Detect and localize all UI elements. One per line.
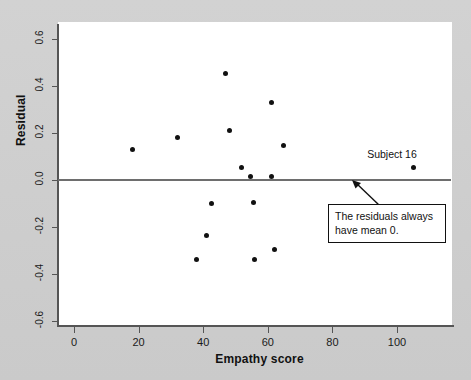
x-tick-mark (203, 327, 204, 333)
residual-plot-figure: 0.60.40.20.0-0.2-0.4-0.6 020406080100 Su… (0, 0, 471, 380)
x-tick-mark (332, 327, 333, 333)
scatter-point (204, 233, 209, 238)
scatter-point (269, 100, 274, 105)
plot-canvas (58, 22, 452, 327)
x-axis-title: Empathy score (0, 352, 471, 366)
x-tick-mark (268, 327, 269, 333)
x-tick-mark (139, 327, 140, 333)
scatter-point (272, 247, 277, 252)
y-tick-mark (52, 39, 58, 40)
x-axis-spine (57, 325, 454, 327)
y-tick-label: 0.2 (34, 121, 45, 143)
callout-text-box: The residuals always have mean 0. (328, 204, 446, 243)
x-axis-title-text: Empathy score (215, 352, 304, 366)
y-tick-mark (52, 86, 58, 87)
x-tick-label: 100 (377, 336, 417, 348)
x-tick-label: 80 (312, 336, 352, 348)
x-tick-mark (74, 327, 75, 333)
y-tick-mark (52, 321, 58, 322)
y-tick-label: -0.4 (34, 262, 45, 284)
scatter-point (209, 201, 214, 206)
x-tick-label: 40 (183, 336, 223, 348)
y-tick-mark (52, 274, 58, 275)
y-axis-title: Residual (14, 94, 28, 146)
x-tick-label: 0 (54, 336, 94, 348)
x-tick-label: 20 (119, 336, 159, 348)
y-tick-label: -0.6 (34, 309, 45, 331)
y-tick-label: 0.6 (34, 27, 45, 49)
zero-reference-line (58, 179, 451, 181)
scatter-point (223, 71, 228, 76)
scatter-point (251, 200, 256, 205)
y-tick-label: 0.4 (34, 74, 45, 96)
scatter-point (227, 128, 232, 133)
scatter-point (130, 147, 135, 152)
y-tick-mark (52, 227, 58, 228)
scatter-point (411, 165, 416, 170)
y-tick-mark (52, 180, 58, 181)
subject-16-label: Subject 16 (367, 148, 417, 160)
y-tick-label: -0.2 (34, 215, 45, 237)
x-tick-label: 60 (248, 336, 288, 348)
y-axis-spine (57, 24, 59, 326)
y-tick-label: 0.0 (34, 168, 45, 190)
scatter-point (269, 174, 274, 179)
scatter-point (248, 174, 253, 179)
y-tick-mark (52, 133, 58, 134)
x-tick-mark (397, 327, 398, 333)
